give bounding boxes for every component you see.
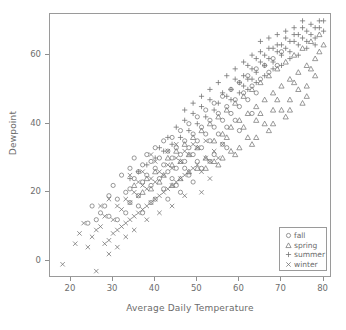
data-point [258, 111, 263, 116]
legend-item-summer[interactable]: summer [283, 250, 326, 260]
data-point [216, 132, 220, 136]
data-point [266, 46, 271, 51]
data-point [115, 228, 119, 232]
data-point [275, 32, 280, 37]
data-point [199, 104, 204, 109]
data-point [204, 108, 208, 112]
data-point [191, 152, 195, 156]
data-point [241, 83, 246, 88]
data-point [292, 32, 297, 37]
data-point [165, 135, 170, 140]
data-point [153, 180, 157, 184]
data-point [149, 152, 153, 156]
data-point [258, 39, 263, 44]
data-point [270, 121, 275, 126]
x-tick-label: 20 [55, 283, 85, 293]
data-point [132, 190, 136, 194]
data-point [98, 224, 102, 228]
y-tick-label: 0 [19, 255, 41, 265]
data-point [60, 262, 64, 266]
data-point [77, 231, 81, 235]
data-point [304, 83, 309, 88]
data-point [178, 128, 182, 132]
data-point [313, 56, 318, 61]
x-tick [238, 277, 239, 281]
legend-item-fall[interactable]: fall [283, 231, 326, 241]
data-point [166, 197, 170, 201]
data-point [136, 194, 140, 198]
data-point [136, 180, 140, 184]
data-point [212, 107, 217, 112]
data-point [140, 190, 145, 195]
data-point [90, 235, 94, 239]
data-point [212, 101, 216, 105]
y-tick-label: 40 [19, 118, 41, 128]
data-point [262, 121, 267, 126]
data-point [157, 145, 162, 150]
data-point [94, 228, 98, 232]
data-point [178, 135, 183, 140]
legend-label: summer [294, 250, 325, 259]
legend-item-winter[interactable]: winter [283, 260, 326, 270]
data-point [317, 18, 322, 23]
data-point [169, 142, 174, 147]
x-tick [280, 277, 281, 281]
data-point [111, 183, 115, 187]
data-point [233, 77, 238, 82]
data-point [254, 118, 259, 123]
data-point [86, 245, 90, 249]
data-point [178, 190, 182, 194]
data-point [216, 101, 221, 106]
data-point [317, 49, 322, 54]
data-point [136, 169, 141, 174]
data-point [103, 242, 107, 246]
data-point [266, 35, 271, 40]
data-point [233, 118, 237, 122]
data-point [182, 118, 187, 123]
data-point [170, 156, 174, 160]
data-point [241, 59, 246, 64]
data-point [296, 42, 301, 47]
data-point [140, 163, 144, 167]
data-point [283, 114, 288, 119]
legend[interactable]: fallspringsummerwinter [279, 227, 327, 271]
data-point [225, 146, 229, 150]
data-point [186, 128, 191, 133]
data-point [132, 228, 136, 232]
data-point [304, 63, 309, 68]
data-point [245, 135, 250, 140]
cross-icon [283, 260, 294, 269]
x-tick [196, 277, 197, 281]
y-tick [45, 260, 49, 261]
data-point [270, 90, 275, 95]
y-tick [45, 123, 49, 124]
data-point [300, 35, 305, 40]
data-point [132, 156, 136, 160]
data-point [157, 194, 161, 198]
data-point [249, 66, 254, 71]
data-point [203, 114, 208, 119]
data-point [283, 59, 288, 64]
circle-icon [283, 231, 294, 240]
data-point [266, 128, 271, 133]
data-point [182, 149, 186, 153]
data-point [224, 94, 229, 99]
legend-item-spring[interactable]: spring [283, 241, 326, 251]
data-point [161, 149, 166, 154]
data-point [279, 83, 284, 88]
data-point [124, 190, 128, 194]
data-point [144, 162, 149, 167]
data-point [254, 135, 259, 140]
data-point [174, 125, 179, 130]
data-point [228, 97, 233, 102]
data-point [86, 221, 90, 225]
data-point [286, 252, 291, 257]
data-point [249, 53, 254, 58]
data-point [107, 214, 111, 218]
data-point [258, 59, 263, 64]
data-point [166, 163, 170, 167]
data-point [258, 49, 263, 54]
data-point [157, 170, 161, 174]
data-point [287, 107, 292, 112]
series-fall [86, 50, 284, 226]
